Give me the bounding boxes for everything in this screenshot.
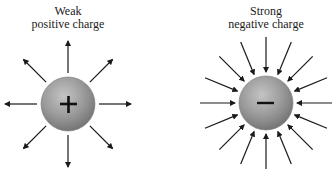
field-arrow <box>241 42 254 74</box>
field-arrow <box>219 56 244 81</box>
field-arrow <box>278 42 291 74</box>
negative-charge-sphere <box>239 76 293 130</box>
positive-charge-sphere <box>41 77 95 131</box>
electric-field-diagram <box>0 0 332 174</box>
field-arrow <box>205 78 237 91</box>
field-arrow <box>205 115 237 128</box>
field-arrow <box>90 126 113 149</box>
field-arrow <box>288 56 313 81</box>
field-arrow <box>288 125 313 150</box>
field-arrow <box>24 60 47 83</box>
field-arrow <box>90 60 113 83</box>
field-arrow <box>278 132 291 164</box>
field-arrow <box>241 132 254 164</box>
field-arrow <box>219 125 244 150</box>
field-arrow <box>24 126 47 149</box>
field-arrow <box>295 78 327 91</box>
field-arrow <box>295 115 327 128</box>
